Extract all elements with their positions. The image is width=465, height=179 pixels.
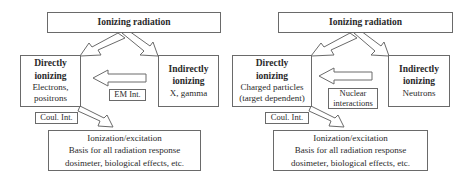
result-line-3: dosimeter, biological effects, etc. — [65, 157, 184, 169]
directly-heading: Directly — [34, 57, 67, 69]
coulomb-interaction-label: Coul. Int. — [40, 113, 72, 123]
result-line-2: Basis for all radiation response — [295, 144, 406, 156]
em-interaction-label: EM Int. — [114, 90, 140, 100]
ionization-excitation-box-left: Ionization/excitation Basis for all radi… — [48, 130, 201, 171]
directly-detail-2: positrons — [34, 93, 67, 104]
indirectly-detail: Neutrons — [403, 88, 436, 99]
directly-detail-1: Electrons, — [32, 82, 68, 93]
arrow-to-indirectly-right — [354, 31, 389, 56]
directly-ionizing-box-right: Directly ionizing Charged particles (tar… — [232, 55, 312, 107]
arrow-to-directly-left — [80, 33, 125, 56]
nuclear-interactions-label-box: Nuclear interactions — [328, 88, 378, 109]
indirectly-detail: X, gamma — [170, 88, 208, 99]
em-interaction-label-box: EM Int. — [109, 89, 146, 101]
indirectly-heading: Indirectly — [169, 63, 209, 75]
ionizing-radiation-label: Ionizing radiation — [329, 17, 402, 28]
result-line-3: dosimeter, biological effects, etc. — [291, 157, 410, 169]
ionizing-heading: ionizing — [256, 70, 288, 82]
indirectly-ionizing-box-right: Indirectly ionizing Neutrons — [388, 55, 450, 107]
ionizing-heading: ionizing — [403, 75, 435, 87]
nuclear-interactions-line-2: interactions — [333, 99, 373, 109]
ionizing-heading: ionizing — [172, 75, 204, 87]
ionization-excitation-box-right: Ionization/excitation Basis for all radi… — [273, 130, 428, 171]
ionizing-radiation-box-right: Ionizing radiation — [278, 12, 453, 33]
ionizing-heading: ionizing — [34, 70, 66, 82]
arrow-to-result-left — [78, 106, 113, 127]
ionizing-radiation-label: Ionizing radiation — [97, 17, 170, 28]
arrow-to-result-right — [309, 106, 344, 127]
directly-detail-1: Charged particles — [240, 82, 303, 93]
coulomb-interaction-label: Coul. Int. — [271, 113, 303, 123]
directly-heading: Directly — [256, 57, 289, 69]
result-line-1: Ionization/excitation — [313, 132, 387, 144]
indirectly-ionizing-box-left: Indirectly ionizing X, gamma — [158, 55, 219, 107]
ionizing-radiation-box-left: Ionizing radiation — [47, 12, 221, 33]
directly-detail-2: (target dependent) — [239, 93, 305, 104]
result-line-1: Ionization/excitation — [87, 132, 161, 144]
arrow-to-indirectly-left — [122, 31, 158, 56]
indirectly-heading: Indirectly — [399, 63, 439, 75]
arrow-indirect-to-direct-right — [319, 68, 372, 84]
directly-ionizing-box-left: Directly ionizing Electrons, positrons — [20, 55, 81, 107]
arrow-indirect-to-direct-left — [93, 70, 146, 86]
arrow-to-directly-right — [311, 33, 357, 56]
result-line-2: Basis for all radiation response — [69, 144, 180, 156]
coulomb-interaction-label-box-left: Coul. Int. — [35, 112, 78, 124]
coulomb-interaction-label-box-right: Coul. Int. — [265, 112, 309, 124]
